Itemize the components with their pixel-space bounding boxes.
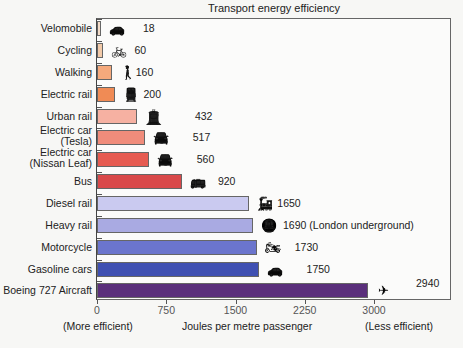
bar bbox=[97, 21, 101, 36]
value-label: 1650 bbox=[277, 197, 300, 209]
chart-title: Transport energy efficiency bbox=[96, 2, 452, 14]
x-axis-title: Joules per metre passenger bbox=[182, 320, 312, 332]
bar bbox=[97, 87, 115, 102]
car-icon: 🚗 bbox=[267, 262, 283, 277]
category-label-line1: Velomobile bbox=[41, 23, 92, 34]
bar bbox=[97, 218, 253, 233]
underground-train-icon: 🚇 bbox=[261, 218, 277, 233]
category-label: Gasoline cars bbox=[28, 264, 92, 275]
category-label: Electric car(Nissan Leaf) bbox=[30, 147, 92, 169]
tram-icon: 🚊 bbox=[145, 109, 162, 124]
velomobile-icon: 🚗 bbox=[109, 21, 125, 36]
value-label: 517 bbox=[193, 131, 211, 143]
value-label: 920 bbox=[218, 175, 236, 187]
bar bbox=[97, 174, 182, 189]
value-label: 1690 (London underground) bbox=[283, 219, 414, 231]
category-label: Cycling bbox=[58, 45, 92, 56]
category-label-line1: Urban rail bbox=[46, 111, 92, 122]
airplane-icon: ✈ bbox=[378, 283, 389, 298]
value-label: 560 bbox=[197, 153, 215, 165]
category-label-line1: Electric rail bbox=[41, 89, 92, 100]
walking-person-icon: 🚶 bbox=[120, 65, 136, 80]
category-label: Urban rail bbox=[46, 111, 92, 122]
category-label: Heavy rail bbox=[45, 220, 92, 231]
y-tick bbox=[97, 172, 102, 173]
category-label: Bus bbox=[74, 176, 92, 187]
y-tick bbox=[97, 128, 102, 129]
bar bbox=[97, 283, 368, 298]
electric-car-icon: 🚘 bbox=[157, 152, 173, 167]
electric-car-icon: 🚘 bbox=[153, 130, 169, 145]
x-tick-label: 0 bbox=[94, 304, 100, 316]
bar bbox=[97, 65, 112, 80]
y-tick bbox=[97, 281, 102, 282]
category-label: Electric car(Tesla) bbox=[40, 125, 92, 147]
y-tick bbox=[97, 63, 102, 64]
value-label: 60 bbox=[135, 44, 147, 56]
category-label-line1: Cycling bbox=[58, 45, 92, 56]
y-tick bbox=[97, 194, 102, 195]
y-tick bbox=[97, 150, 102, 151]
x-tick-label: 2250 bbox=[293, 304, 316, 316]
y-tick bbox=[97, 19, 102, 20]
category-label-line1: Heavy rail bbox=[45, 220, 92, 231]
bar bbox=[97, 130, 145, 145]
value-label: 432 bbox=[195, 110, 213, 122]
y-tick bbox=[97, 107, 102, 108]
bar bbox=[97, 196, 249, 211]
category-label: Boeing 727 Aircraft bbox=[3, 285, 92, 296]
category-label-line1: Gasoline cars bbox=[28, 264, 92, 275]
category-label-line1: Diesel rail bbox=[46, 198, 92, 209]
category-label-line1: Motorcycle bbox=[41, 242, 92, 253]
plot-area bbox=[96, 18, 451, 300]
value-label: 1750 bbox=[307, 263, 330, 275]
value-label: 1730 bbox=[295, 241, 318, 253]
bar bbox=[97, 43, 103, 58]
category-label: Walking bbox=[55, 67, 92, 78]
y-tick bbox=[97, 260, 102, 261]
category-label-line1: Bus bbox=[74, 176, 92, 187]
category-label: Velomobile bbox=[41, 23, 92, 34]
y-tick bbox=[97, 85, 102, 86]
category-label: Diesel rail bbox=[46, 198, 92, 209]
x-axis-left-note: (More efficient) bbox=[63, 320, 133, 332]
x-tick-label: 750 bbox=[157, 304, 175, 316]
value-label: 200 bbox=[143, 88, 161, 100]
electric-train-icon: 🚆 bbox=[123, 87, 139, 102]
x-tick-label: 3000 bbox=[362, 304, 385, 316]
bar bbox=[97, 240, 257, 255]
bicycle-icon: 🚲 bbox=[111, 43, 127, 58]
bar bbox=[97, 152, 149, 167]
category-label: Motorcycle bbox=[41, 242, 92, 253]
category-label-line2: (Nissan Leaf) bbox=[30, 158, 92, 169]
motorcycle-icon: 🏍 bbox=[265, 240, 282, 255]
category-label-line1: Boeing 727 Aircraft bbox=[3, 285, 92, 296]
category-label: Electric rail bbox=[41, 89, 92, 100]
x-axis-right-note: (Less efficient) bbox=[365, 320, 433, 332]
bus-stop-icon: 🚌 bbox=[190, 174, 206, 189]
diesel-train-icon: 🚂 bbox=[257, 196, 273, 211]
value-label: 2940 bbox=[416, 277, 439, 289]
category-label-line1: Walking bbox=[55, 67, 92, 78]
bar bbox=[97, 109, 137, 124]
y-tick bbox=[97, 238, 102, 239]
y-tick bbox=[97, 216, 102, 217]
value-label: 160 bbox=[136, 66, 154, 78]
value-label: 18 bbox=[143, 22, 155, 34]
y-tick bbox=[97, 41, 102, 42]
x-tick-label: 1500 bbox=[224, 304, 247, 316]
bar bbox=[97, 262, 259, 277]
